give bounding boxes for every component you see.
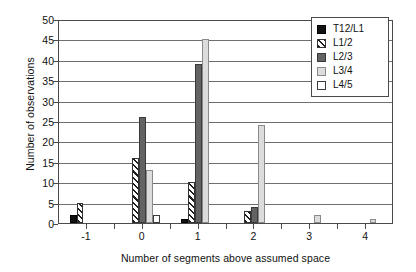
chart-legend: T12/L1L1/2L2/3L3/4L4/5 [311,17,389,97]
legend-swatch-icon [317,39,326,48]
legend-item-label: L4/5 [333,80,352,90]
legend-item: L4/5 [317,78,384,92]
y-tick-label: 50 [14,15,54,26]
x-tick-label: 4 [350,230,380,242]
x-tick-label: 1 [183,230,213,242]
bar [188,182,195,223]
x-category-separator-tick [170,224,171,229]
x-tick-mark [142,224,143,229]
bar [202,39,209,223]
y-tick-label: 10 [14,178,54,189]
bar [251,207,258,223]
bar [153,215,160,223]
y-tick-label: 30 [14,97,54,108]
gridline [59,102,392,103]
x-tick-mark [253,224,254,229]
legend-item-label: T12/L1 [333,24,364,34]
bar [146,170,153,223]
legend-swatch-icon [317,53,326,62]
legend-item: L3/4 [317,64,384,78]
x-tick-mark [365,224,366,229]
bar [139,117,146,223]
x-tick-label: 2 [238,230,268,242]
legend-item-label: L1/2 [333,38,352,48]
gridline [59,183,392,184]
legend-item: L1/2 [317,36,384,50]
y-tick-label: 40 [14,56,54,67]
bar [181,219,188,223]
legend-item-label: L2/3 [333,52,352,62]
y-tick-label: 35 [14,76,54,87]
x-category-separator-tick [226,224,227,229]
gridline [59,204,392,205]
legend-swatch-icon [317,25,326,34]
gridline [59,163,392,164]
bar [77,203,84,223]
bar [70,215,77,223]
bar [258,125,265,223]
y-tick-label: 5 [14,199,54,210]
x-tick-label: 3 [294,230,324,242]
legend-item-label: L3/4 [333,66,352,76]
y-axis-title: Number of observations [24,29,36,199]
gridline [59,122,392,123]
x-tick-label: -1 [71,230,101,242]
legend-swatch-icon [317,67,326,76]
y-tick-label: 25 [14,117,54,128]
x-tick-mark [198,224,199,229]
bar [370,219,377,223]
y-tick-label: 20 [14,137,54,148]
legend-swatch-icon [317,81,326,90]
x-axis-title: Number of segments above assumed space [58,252,393,264]
y-tick-mark [53,224,58,225]
legend-item: L2/3 [317,50,384,64]
legend-item: T12/L1 [317,22,384,36]
x-category-separator-tick [114,224,115,229]
x-tick-label: 0 [127,230,157,242]
gridline [59,142,392,143]
bar [195,64,202,223]
y-tick-label: 45 [14,35,54,46]
x-tick-mark [86,224,87,229]
x-tick-mark [309,224,310,229]
bar-chart: Number of observations Number of segment… [0,0,416,272]
y-tick-label: 15 [14,158,54,169]
x-category-separator-tick [281,224,282,229]
x-category-separator-tick [337,224,338,229]
bar [132,158,139,223]
y-tick-label: 0 [14,219,54,230]
bar [244,211,251,223]
bar [314,215,321,223]
